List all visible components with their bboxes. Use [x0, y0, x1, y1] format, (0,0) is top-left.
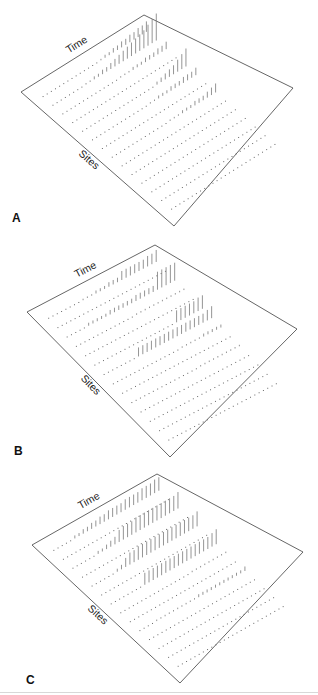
plane-outline [32, 474, 303, 683]
caption-divider [0, 692, 318, 693]
panel-letter: A [12, 211, 21, 225]
panel-b: TimeSitesB [14, 245, 297, 458]
panel-letter: C [26, 673, 35, 687]
panel-c: TimeSitesC [26, 474, 303, 687]
figure-canvas: TimeSitesA TimeSitesB TimeSitesC [0, 0, 318, 695]
plane-outline [21, 15, 293, 226]
panel-a: TimeSitesA [12, 14, 293, 226]
panel-letter: B [14, 444, 23, 458]
